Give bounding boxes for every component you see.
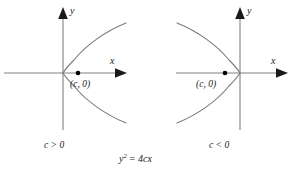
focus-point-left <box>76 71 81 76</box>
condition-label-left: c > 0 <box>44 140 64 150</box>
equation-text: y2= 4cx <box>118 152 153 164</box>
equation-exponent: 2 <box>123 152 127 159</box>
x-axis-arrowhead-right <box>276 68 288 78</box>
x-axis-arrowhead-left <box>115 68 127 78</box>
panel-right: (c, 0) y x c < 0 <box>176 5 288 150</box>
equation-label: y2= 4cx <box>118 152 153 164</box>
focus-label-right: (c, 0) <box>196 79 216 90</box>
parabola-figure: (c, 0) y x c > 0 (c, 0) y x <box>0 0 292 173</box>
x-axis-label-left: x <box>109 55 115 66</box>
x-axis-label-right: x <box>270 55 276 66</box>
panel-left: (c, 0) y x c > 0 <box>4 5 127 150</box>
focus-label-left: (c, 0) <box>70 79 90 90</box>
y-axis-arrowhead-left <box>58 7 68 19</box>
figure-canvas: (c, 0) y x c > 0 (c, 0) y x <box>0 0 292 173</box>
y-axis-arrowhead-right <box>235 7 245 19</box>
equation-rest: = 4cx <box>129 153 153 164</box>
y-axis-label-right: y <box>246 5 252 16</box>
y-axis-label-left: y <box>69 5 75 16</box>
focus-point-right <box>223 71 228 76</box>
condition-label-right: c < 0 <box>209 140 229 150</box>
